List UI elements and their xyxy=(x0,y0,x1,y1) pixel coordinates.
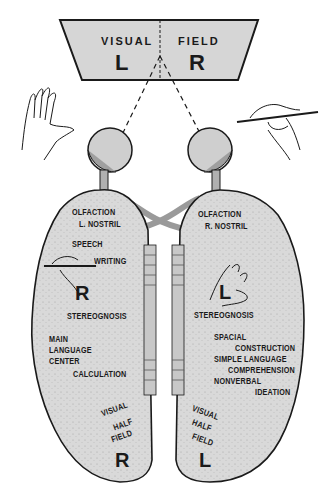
lh-olfaction: OLFACTION xyxy=(72,208,115,217)
lh-writing: WRITING xyxy=(94,257,126,266)
rh-stereognosis: STEREOGNOSIS xyxy=(194,311,254,320)
rh-spacial: SPACIAL xyxy=(214,333,246,342)
lh-speech: SPEECH xyxy=(72,240,103,249)
visual-field-panel xyxy=(60,20,258,80)
lh-nostril: L. NOSTRIL xyxy=(79,220,121,229)
visual-field-word-right: FIELD xyxy=(178,36,220,47)
rh-field-letter: L xyxy=(199,450,211,470)
rh-olfaction: OLFACTION xyxy=(198,210,241,219)
rh-hand-letter: L xyxy=(219,282,231,302)
visual-field-letter-right: R xyxy=(189,52,205,74)
rh-simple-language: SIMPLE LANGUAGE xyxy=(214,355,287,364)
visual-field-letter-left: L xyxy=(115,52,129,74)
lh-stereognosis: STEREOGNOSIS xyxy=(67,312,127,321)
right-eye xyxy=(188,128,232,192)
hand-with-pen-icon xyxy=(237,105,318,161)
lh-main: MAIN xyxy=(49,335,68,344)
rh-comprehension: COMPREHENSION xyxy=(228,366,295,375)
rh-nonverbal: NONVERBAL xyxy=(214,377,261,386)
open-hand-icon xyxy=(22,88,74,160)
corpus-callosum xyxy=(144,245,184,395)
visual-field-word-left: VISUAL xyxy=(101,36,153,47)
rh-ideation: IDEATION xyxy=(255,388,290,397)
rh-nostril: R. NOSTRIL xyxy=(205,222,248,231)
lh-center: CENTER xyxy=(49,357,80,366)
lh-hand-letter: R xyxy=(75,283,90,303)
rh-construction: CONSTRUCTION xyxy=(235,344,295,353)
lh-field-letter: R xyxy=(115,450,130,470)
lh-calculation: CALCULATION xyxy=(73,370,127,379)
left-eye xyxy=(88,128,132,192)
split-brain-diagram xyxy=(0,0,332,496)
lh-language: LANGUAGE xyxy=(49,346,92,355)
